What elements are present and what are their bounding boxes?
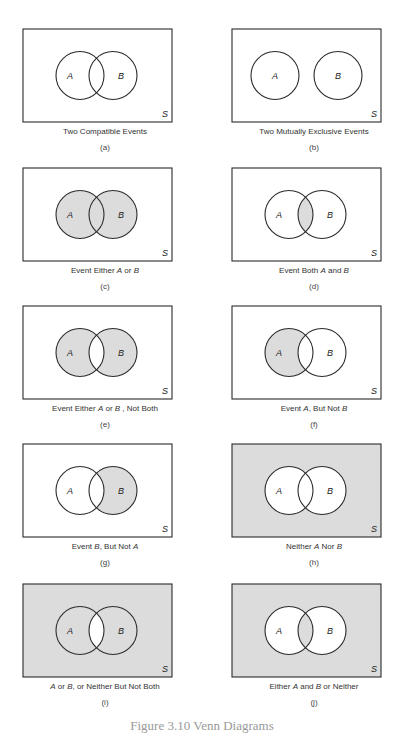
venn-diagram: ABS xyxy=(219,159,404,279)
svg-text:A: A xyxy=(275,348,282,358)
svg-text:B: B xyxy=(118,71,124,81)
universe-box xyxy=(23,29,172,122)
venn-diagram: ABS xyxy=(10,159,200,279)
venn-diagram: ABS xyxy=(10,575,200,695)
set-a-label: A xyxy=(275,626,282,636)
svg-text:A: A xyxy=(66,626,73,636)
panel-caption: Two Compatible Events xyxy=(10,127,200,136)
svg-text:S: S xyxy=(162,386,168,396)
universe-label: S xyxy=(162,248,168,258)
svg-text:S: S xyxy=(371,386,377,396)
universe-label: S xyxy=(162,524,168,534)
venn-diagram: ABS xyxy=(10,435,200,555)
panel-caption: Two Mutually Exclusive Events xyxy=(219,127,404,136)
set-b-label: B xyxy=(327,626,333,636)
svg-text:S: S xyxy=(371,524,377,534)
panel-caption: Either A and B or Neither xyxy=(219,682,404,691)
venn-diagram: ABS xyxy=(10,297,200,417)
figure-caption: Figure 3.10 Venn Diagrams xyxy=(0,718,404,734)
set-a-circle xyxy=(56,52,104,100)
panel-sublabel: (h) xyxy=(219,558,404,567)
svg-text:S: S xyxy=(162,109,168,119)
svg-text:S: S xyxy=(371,109,377,119)
universe-label: S xyxy=(371,524,377,534)
svg-text:A: A xyxy=(66,348,73,358)
svg-text:B: B xyxy=(327,486,333,496)
svg-text:S: S xyxy=(162,664,168,674)
shaded-outside-region xyxy=(232,444,381,537)
svg-text:B: B xyxy=(118,210,124,220)
venn-diagram: ABS xyxy=(219,297,404,417)
svg-text:B: B xyxy=(327,348,333,358)
universe-label: S xyxy=(371,109,377,119)
venn-diagram: ABS xyxy=(10,20,200,140)
set-a-label: A xyxy=(66,486,73,496)
set-b-label: B xyxy=(118,71,124,81)
set-b-label: B xyxy=(118,348,124,358)
svg-text:B: B xyxy=(335,71,341,81)
set-a-label: A xyxy=(66,71,73,81)
universe-label: S xyxy=(371,664,377,674)
panel-sublabel: (g) xyxy=(10,558,200,567)
universe-label: S xyxy=(371,386,377,396)
set-a-label: A xyxy=(66,626,73,636)
svg-text:S: S xyxy=(162,524,168,534)
svg-text:A: A xyxy=(275,486,282,496)
panel-caption: Event Either A or B xyxy=(10,266,200,275)
set-a-label: A xyxy=(66,210,73,220)
panel-caption: Event A, But Not B xyxy=(219,404,404,413)
set-b-label: B xyxy=(118,210,124,220)
set-a-label: A xyxy=(275,486,282,496)
set-b-label: B xyxy=(327,210,333,220)
svg-text:B: B xyxy=(118,348,124,358)
svg-text:B: B xyxy=(327,626,333,636)
svg-text:A: A xyxy=(66,71,73,81)
panel-sublabel: (b) xyxy=(219,143,404,152)
universe-label: S xyxy=(371,248,377,258)
panel-caption: Event B, But Not A xyxy=(10,542,200,551)
svg-text:A: A xyxy=(66,486,73,496)
set-a-label: A xyxy=(66,348,73,358)
venn-diagram: ABS xyxy=(219,575,404,695)
svg-text:B: B xyxy=(118,626,124,636)
panel-caption: Neither A Nor B xyxy=(219,542,404,551)
panel-sublabel: (e) xyxy=(10,420,200,429)
svg-text:S: S xyxy=(162,248,168,258)
svg-text:A: A xyxy=(275,210,282,220)
svg-text:S: S xyxy=(371,664,377,674)
set-b-label: B xyxy=(335,71,341,81)
panel-sublabel: (i) xyxy=(10,698,200,707)
panel-sublabel: (f) xyxy=(219,420,404,429)
universe-label: S xyxy=(162,664,168,674)
svg-text:A: A xyxy=(66,210,73,220)
panel-caption: A or B, or Neither But Not Both xyxy=(10,682,200,691)
panel-sublabel: (a) xyxy=(10,143,200,152)
set-b-label: B xyxy=(118,626,124,636)
set-a-label: A xyxy=(275,348,282,358)
set-a-label: A xyxy=(275,210,282,220)
venn-diagram: ABS xyxy=(219,435,404,555)
svg-text:B: B xyxy=(118,486,124,496)
set-b-label: B xyxy=(327,486,333,496)
panel-sublabel: (j) xyxy=(219,698,404,707)
universe-box xyxy=(232,29,381,122)
panel-sublabel: (d) xyxy=(219,282,404,291)
panel-caption: Event Either A or B , Not Both xyxy=(10,404,200,413)
panel-sublabel: (c) xyxy=(10,282,200,291)
panel-caption: Event Both A and B xyxy=(219,266,404,275)
universe-label: S xyxy=(162,109,168,119)
svg-text:A: A xyxy=(271,71,278,81)
set-b-circle xyxy=(89,52,137,100)
set-b-label: B xyxy=(327,348,333,358)
set-b-label: B xyxy=(118,486,124,496)
svg-text:B: B xyxy=(327,210,333,220)
universe-label: S xyxy=(162,386,168,396)
svg-text:S: S xyxy=(371,248,377,258)
venn-diagram: ABS xyxy=(219,20,404,140)
set-a-label: A xyxy=(271,71,278,81)
svg-text:A: A xyxy=(275,626,282,636)
